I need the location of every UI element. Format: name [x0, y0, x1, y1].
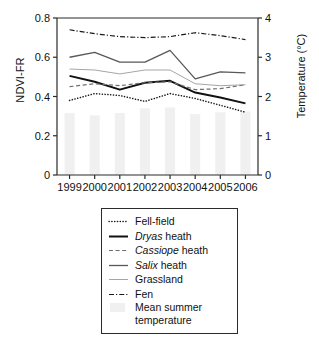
y-tick-label-left: 0.6 — [35, 51, 50, 63]
legend-item-label: Fell-field — [135, 214, 175, 229]
y-tick-label-right: 4 — [265, 12, 271, 24]
y-tick-label-right: 1 — [265, 130, 271, 142]
y-tick-label-left: 0 — [44, 169, 50, 181]
series-lines — [70, 30, 246, 112]
legend-species-name: Cassiope — [135, 244, 179, 256]
legend-species-name: Dryas — [135, 230, 162, 242]
chart-area: 00.20.40.60.8 01234 19992000200120022003… — [0, 0, 319, 196]
x-tick-label: 2001 — [108, 181, 132, 193]
x-tick-label: 2005 — [208, 181, 232, 193]
y-tick-label-right: 2 — [265, 91, 271, 103]
legend-items: Fell-fieldDryas heathCassiope heathSalix… — [107, 214, 233, 329]
x-tick-label: 2006 — [233, 181, 257, 193]
legend-species-name: Salix — [135, 259, 158, 271]
series-line-salix-heath — [70, 50, 246, 78]
figure-container: 00.20.40.60.8 01234 19992000200120022003… — [0, 0, 319, 342]
y-tick-label-right: 3 — [265, 51, 271, 63]
legend-item: Cassiope heath — [107, 243, 233, 258]
legend-item: Fell-field — [107, 214, 233, 229]
x-tick-label: 2004 — [183, 181, 207, 193]
legend-item-label: Salix heath — [135, 258, 187, 273]
bar-swatch-icon — [107, 301, 131, 314]
x-tick-label: 2003 — [158, 181, 182, 193]
legend-item-label: Grassland — [135, 272, 183, 287]
series-line-dryas-heath — [70, 76, 246, 103]
legend-item-label: Mean summer temperature — [135, 301, 233, 327]
y-axis-right-ticks: 01234 — [258, 12, 271, 181]
legend-item-label: Dryas heath — [135, 229, 192, 244]
temperature-bar — [65, 113, 75, 175]
legend-item-label: Fen — [135, 287, 153, 302]
x-tick-label: 2002 — [133, 181, 157, 193]
x-tick-label: 1999 — [57, 181, 81, 193]
temperature-bar — [215, 112, 225, 175]
y-axis-left-ticks: 00.20.40.60.8 — [35, 12, 57, 181]
legend-item: Salix heath — [107, 258, 233, 273]
solid-medium-line-icon — [107, 258, 131, 273]
y-tick-label-left: 0.2 — [35, 130, 50, 142]
x-axis-ticks: 19992000200120022003200420052006 — [57, 175, 257, 193]
mean-summer-temperature-bars — [65, 107, 251, 175]
dashed-line-icon — [107, 243, 131, 258]
solid-thin-line-icon — [107, 272, 131, 287]
temperature-bar — [240, 111, 250, 175]
temperature-bar — [140, 108, 150, 175]
y-axis-right-title: Temperature (°C) — [295, 21, 307, 131]
temperature-bar — [165, 107, 175, 175]
temperature-bar — [115, 113, 125, 175]
y-tick-label-left: 0.4 — [35, 91, 50, 103]
y-tick-label-right: 0 — [265, 169, 271, 181]
temperature-bar — [190, 114, 200, 175]
chart-plot-svg: 00.20.40.60.8 01234 19992000200120022003… — [0, 0, 319, 196]
dash-dot-line-icon — [107, 287, 131, 302]
legend-item: Fen — [107, 287, 233, 302]
chart-legend: Fell-fieldDryas heathCassiope heathSalix… — [101, 208, 238, 334]
axes — [57, 18, 258, 175]
y-axis-left-title: NDVI-FR — [14, 40, 26, 120]
legend-item: Mean summer temperature — [107, 301, 233, 329]
legend-item: Grassland — [107, 272, 233, 287]
series-line-fen — [70, 30, 246, 40]
y-tick-label-left: 0.8 — [35, 12, 50, 24]
legend-item-label: Cassiope heath — [135, 243, 208, 258]
legend-item: Dryas heath — [107, 229, 233, 244]
x-tick-label: 2000 — [82, 181, 106, 193]
temperature-bar — [90, 115, 100, 175]
dotted-line-icon — [107, 214, 131, 229]
solid-bold-line-icon — [107, 229, 131, 244]
bar-swatch — [110, 303, 125, 312]
